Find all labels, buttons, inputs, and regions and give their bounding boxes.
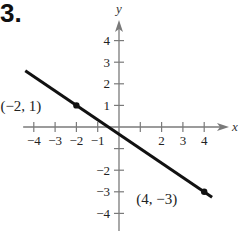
- x-tick-label: −4: [27, 133, 41, 148]
- x-tick-label: −1: [91, 133, 105, 148]
- y-tick-label: 1: [104, 98, 111, 113]
- x-axis-label: x: [231, 119, 238, 134]
- x-tick-label: 2: [158, 133, 165, 148]
- x-tick-label: 3: [180, 133, 187, 148]
- data-point: [73, 102, 79, 108]
- y-tick-label: −4: [96, 206, 110, 221]
- y-tick-label: −2: [96, 163, 110, 178]
- x-tick-label: −2: [69, 133, 83, 148]
- y-tick-label: 4: [104, 33, 111, 48]
- y-tick-label: 3: [104, 55, 111, 70]
- coordinate-plane: xy −4−3−2−1234−4−3−21234 (−2, 1)(4, −3): [0, 0, 246, 242]
- data-point-label: (4, −3): [136, 191, 177, 208]
- y-tick-label: −3: [96, 184, 110, 199]
- x-tick-label: 4: [201, 133, 208, 148]
- data-point: [201, 189, 207, 195]
- x-tick-label: −3: [48, 133, 62, 148]
- y-axis-label: y: [114, 1, 122, 16]
- axes: xy: [23, 1, 238, 231]
- y-tick-label: 2: [104, 76, 111, 91]
- data-point-label: (−2, 1): [0, 98, 41, 115]
